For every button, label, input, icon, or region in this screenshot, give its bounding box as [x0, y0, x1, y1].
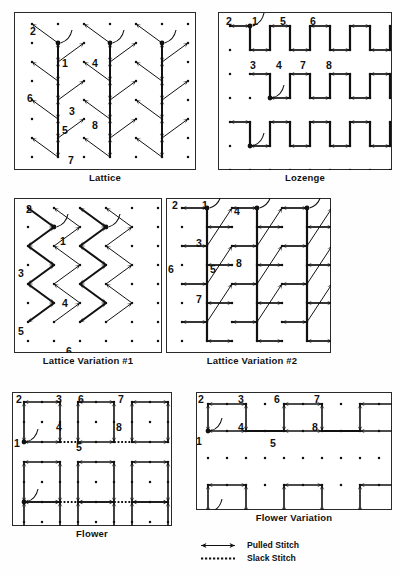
step-label-5: 5: [62, 124, 68, 136]
caption-lattice-variation-1: Lattice Variation #1: [2, 355, 174, 366]
legend-label-slack-stitch: Slack Stitch: [247, 553, 296, 564]
panel-flower-variation: 23674815 Flower Variation: [196, 392, 392, 510]
step-label-4: 4: [238, 421, 244, 433]
step-label-2: 2: [226, 15, 232, 27]
step-label-4: 4: [92, 57, 98, 69]
step-label-1: 1: [196, 435, 202, 447]
caption-lattice-variation-2: Lattice Variation #2: [162, 355, 342, 366]
step-label-5: 5: [270, 437, 276, 449]
legend-label-pulled-stitch: Pulled Stitch: [247, 540, 299, 551]
step-label-6: 6: [78, 393, 84, 405]
step-label-2: 2: [26, 203, 32, 215]
step-label-2: 2: [30, 25, 36, 37]
step-label-6: 6: [27, 92, 33, 104]
step-label-3: 3: [238, 393, 244, 405]
step-label-7: 7: [118, 393, 124, 405]
caption-flower: Flower: [12, 528, 172, 539]
step-label-4: 4: [234, 205, 240, 217]
step-label-7: 7: [314, 393, 320, 405]
step-label-6: 6: [310, 15, 316, 27]
caption-lattice: Lattice: [14, 172, 196, 183]
lattice-variation-1-diagram: 213456: [14, 198, 162, 353]
step-label-6: 6: [66, 345, 72, 353]
step-label-3: 3: [18, 267, 24, 279]
step-label-4: 4: [62, 297, 68, 309]
step-label-4: 4: [56, 421, 62, 433]
lattice-diagram: 21463587: [14, 12, 196, 170]
step-label-3: 3: [196, 237, 202, 249]
step-label-6: 6: [274, 393, 280, 405]
step-label-1: 1: [252, 15, 258, 27]
step-label-8: 8: [116, 421, 122, 433]
lattice-variation-2-diagram: 21436587: [166, 198, 331, 353]
step-label-3: 3: [56, 393, 62, 405]
step-label-6: 6: [168, 263, 174, 275]
step-label-5: 5: [76, 441, 82, 453]
step-label-8: 8: [326, 59, 332, 71]
step-label-7: 7: [300, 59, 306, 71]
panel-lattice-variation-1: 213456 Lattice Variation #1: [14, 198, 162, 353]
panel-flower: 23674815 Flower: [12, 392, 172, 526]
step-label-1: 1: [60, 235, 66, 247]
step-label-5: 5: [280, 15, 286, 27]
step-label-1: 1: [62, 57, 68, 69]
step-label-1: 1: [202, 199, 208, 211]
step-label-5: 5: [210, 263, 216, 275]
caption-lozenge: Lozenge: [218, 172, 392, 183]
step-label-7: 7: [68, 154, 74, 166]
flower-variation-diagram: 23674815: [196, 392, 392, 510]
step-label-3: 3: [69, 105, 75, 117]
step-label-8: 8: [92, 119, 98, 131]
step-label-4: 4: [276, 59, 282, 71]
dotted-line-icon: [196, 553, 240, 564]
caption-flower-variation: Flower Variation: [196, 512, 392, 523]
legend-item-pulled-stitch: Pulled Stitch: [196, 540, 299, 551]
step-label-2: 2: [198, 393, 204, 405]
step-label-1: 1: [14, 437, 20, 449]
step-label-8: 8: [312, 421, 318, 433]
step-label-2: 2: [16, 393, 22, 405]
step-label-7: 7: [196, 293, 202, 305]
flower-diagram: 23674815: [12, 392, 172, 526]
step-label-8: 8: [236, 257, 242, 269]
panel-lattice-variation-2: 21436587 Lattice Variation #2: [166, 198, 331, 353]
diagram-sheet: 21463587 Lattice 21563478 Lozenge 213456…: [0, 0, 400, 577]
panel-lattice: 21463587 Lattice: [14, 12, 196, 170]
legend: Pulled Stitch Slack Stitch: [196, 540, 299, 564]
double-arrow-line-icon: [196, 540, 240, 551]
lozenge-diagram: 21563478: [218, 12, 392, 170]
legend-item-slack-stitch: Slack Stitch: [196, 553, 299, 564]
step-label-3: 3: [250, 59, 256, 71]
panel-lozenge: 21563478 Lozenge: [218, 12, 392, 170]
step-label-5: 5: [18, 325, 24, 337]
step-label-2: 2: [172, 199, 178, 211]
